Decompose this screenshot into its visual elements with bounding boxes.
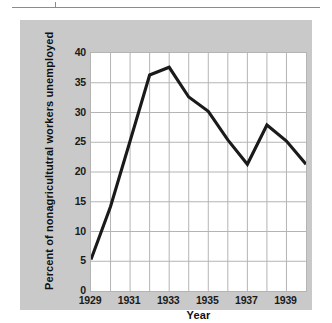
x-axis-tick-label: 1937 xyxy=(235,294,258,306)
y-axis-tick-label: 20 xyxy=(64,166,86,176)
y-axis-title: Percent of nonagricultutral workers unem… xyxy=(43,40,55,290)
y-axis-tick-labels: 0510152025303540 xyxy=(62,20,86,310)
y-axis-tick-label: 35 xyxy=(64,77,86,87)
page-header-rule-tick xyxy=(55,2,56,8)
chart-figure: 0510152025303540 19291931193319351937193… xyxy=(0,0,332,323)
x-axis-tick-label: 1939 xyxy=(274,294,297,306)
y-axis-tick-label: 30 xyxy=(64,107,86,117)
x-axis-tick-label: 1931 xyxy=(118,294,141,306)
y-axis-tick-label: 15 xyxy=(64,196,86,206)
y-axis-tick-label: 10 xyxy=(64,226,86,236)
plot-area xyxy=(90,52,307,292)
plot-canvas xyxy=(91,53,306,291)
page-header-rule xyxy=(12,7,320,8)
x-axis-title: Year xyxy=(90,309,307,321)
x-axis-tick-label: 1935 xyxy=(196,294,219,306)
y-axis-tick-label: 25 xyxy=(64,136,86,146)
chart-plate: 0510152025303540 19291931193319351937193… xyxy=(20,20,312,310)
x-axis-tick-label: 1933 xyxy=(157,294,180,306)
y-axis-tick-label: 5 xyxy=(64,255,86,265)
gridlines xyxy=(91,53,306,291)
x-axis-tick-labels: 192919311933193519371939 xyxy=(20,294,312,310)
y-axis-tick-label: 40 xyxy=(64,47,86,57)
x-axis-tick-label: 1929 xyxy=(79,294,102,306)
unemployment-line xyxy=(91,67,306,259)
